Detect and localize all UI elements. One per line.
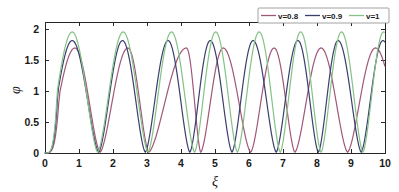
legend-label: v=0.8 (278, 12, 299, 21)
chart-legend[interactable]: v=0.8v=0.9v=1 (258, 8, 389, 23)
x-tick-label: 1 (76, 157, 82, 169)
y-tick-label: 0 (33, 147, 39, 159)
line-chart: 012345678910 00.511.52 ξ φ v=0.8v=0.9v=1 (0, 0, 399, 192)
x-tick-label: 4 (178, 157, 184, 169)
legend-label: v=1 (366, 12, 380, 21)
x-tick-label: 10 (379, 157, 391, 169)
y-axis-label: φ (8, 86, 23, 94)
y-tick-label: 0.5 (24, 116, 39, 128)
x-tick-label: 0 (42, 157, 48, 169)
y-tick-label: 1.5 (24, 54, 39, 66)
y-axis-tick-labels: 00.511.52 (24, 23, 39, 159)
x-axis-tick-labels: 012345678910 (42, 157, 391, 169)
y-tick-label: 1 (33, 85, 39, 97)
x-tick-label: 8 (314, 157, 320, 169)
x-axis-label: ξ (212, 174, 218, 189)
x-tick-label: 7 (280, 157, 286, 169)
x-tick-label: 5 (212, 157, 218, 169)
x-tick-label: 6 (246, 157, 252, 169)
x-tick-label: 9 (348, 157, 354, 169)
x-tick-label: 3 (144, 157, 150, 169)
y-tick-label: 2 (33, 23, 39, 35)
x-tick-label: 2 (110, 157, 116, 169)
legend-label: v=0.9 (322, 12, 343, 21)
figure-container: 012345678910 00.511.52 ξ φ v=0.8v=0.9v=1 (0, 0, 399, 192)
